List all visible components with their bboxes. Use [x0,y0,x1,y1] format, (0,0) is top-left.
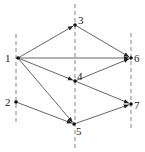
node-dot [14,100,18,104]
node-dot [73,23,77,27]
node-dot [129,102,133,106]
edges [16,25,129,124]
edge-2-to-5 [16,102,72,123]
graph-diagram: 1234567 [0,0,145,152]
edge-4-to-7 [75,81,129,103]
edge-3-to-6 [75,25,129,57]
nodes: 1234567 [5,14,140,137]
node-1: 1 [5,52,20,64]
node-label: 7 [134,99,140,111]
node-label: 2 [5,96,11,108]
edge-1-to-5 [18,58,72,122]
node-dot [16,56,20,60]
node-label: 6 [134,52,140,64]
edge-4-to-6 [75,59,129,81]
edge-1-to-4 [18,58,73,80]
node-dot [129,56,133,60]
node-label: 3 [78,14,84,26]
node-label: 5 [76,125,82,137]
node-7: 7 [129,99,140,111]
node-5: 5 [72,122,82,137]
edge-1-to-3 [18,26,73,58]
node-label: 1 [5,52,11,64]
node-label: 4 [77,70,83,82]
directed-graph-svg: 1234567 [0,0,145,152]
edge-5-to-7 [74,105,129,124]
